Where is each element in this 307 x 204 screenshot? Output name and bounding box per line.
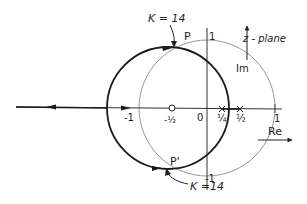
diagram-canvas: K = 14 P 1 z - plane Im -1 -½ 0 ¼ ½ 1 Re… bbox=[0, 0, 307, 204]
imag-one-label: 1 bbox=[209, 31, 215, 42]
half-label: ½ bbox=[236, 113, 246, 124]
k-top-label: K = 14 bbox=[148, 12, 185, 25]
minus-one-label: -1 bbox=[124, 112, 134, 123]
im-label: Im bbox=[236, 63, 249, 74]
k-bottom-pointer bbox=[168, 173, 188, 184]
real-axis-locus bbox=[16, 107, 108, 108]
z-plane-label: z - plane bbox=[242, 33, 286, 44]
zero-marker-icon bbox=[169, 105, 175, 111]
real-one-label: 1 bbox=[274, 113, 280, 124]
origin-label: 0 bbox=[197, 112, 203, 123]
root-locus-diagram: K = 14 P 1 z - plane Im -1 -½ 0 ¼ ½ 1 Re… bbox=[0, 0, 307, 204]
k-bottom-label: K =14 bbox=[190, 180, 224, 193]
re-label: Re bbox=[268, 125, 282, 138]
quarter-label: ¼ bbox=[217, 113, 227, 124]
arrow-left-icon bbox=[46, 105, 56, 110]
arrow-right-icon bbox=[121, 106, 131, 111]
point-p-label: P bbox=[184, 30, 191, 43]
point-p-prime-label: P' bbox=[170, 155, 180, 168]
minus-half-label: -½ bbox=[164, 115, 176, 125]
